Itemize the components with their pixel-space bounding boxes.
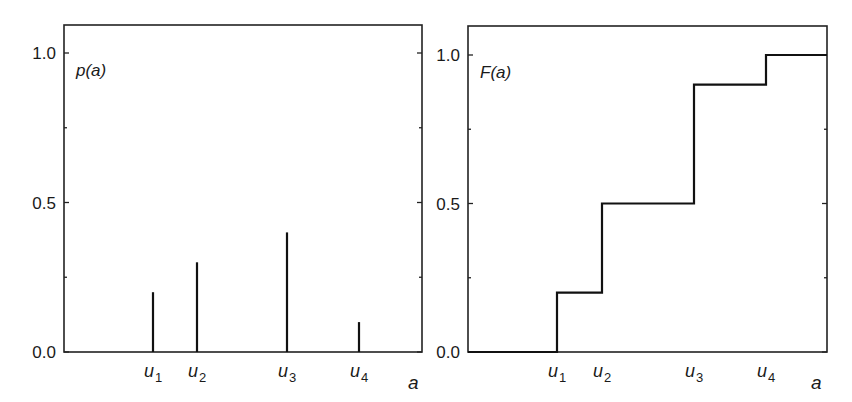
y-tick-label: 1.0 <box>32 44 56 63</box>
y-tick-label: 0.5 <box>436 195 460 214</box>
category-subscript: 2 <box>199 370 206 385</box>
category-subscript: 1 <box>155 370 162 385</box>
x-category-label: u3 <box>685 361 703 385</box>
category-base: u <box>593 361 603 381</box>
chart-canvas: 0.00.51.0p(a)u1u2u3u4a 0.00.51.0F(a)u1u2… <box>0 0 852 402</box>
x-category-label: u3 <box>278 361 296 385</box>
category-base: u <box>757 361 767 381</box>
category-base: u <box>685 361 695 381</box>
x-axis-label: a <box>408 372 419 393</box>
category-subscript: 4 <box>361 370 368 385</box>
y-tick-label: 0.0 <box>436 343 460 362</box>
category-base: u <box>188 361 198 381</box>
x-category-label: u4 <box>350 361 368 385</box>
category-subscript: 1 <box>559 370 566 385</box>
x-axis-label: a <box>811 372 822 393</box>
y-tick-label: 0.5 <box>32 194 56 213</box>
x-category-label: u2 <box>593 361 611 385</box>
x-category-label: u2 <box>188 361 206 385</box>
y-tick-label: 0.0 <box>32 343 56 362</box>
category-base: u <box>278 361 288 381</box>
category-base: u <box>548 361 558 381</box>
x-category-label: u4 <box>757 361 775 385</box>
pmf-panel: 0.00.51.0p(a)u1u2u3u4a <box>32 25 422 393</box>
x-category-label: u1 <box>144 361 162 385</box>
plot-frame <box>468 26 827 352</box>
category-subscript: 3 <box>289 370 296 385</box>
cdf-panel: 0.00.51.0F(a)u1u2u3u4a <box>436 26 827 393</box>
figure: 0.00.51.0p(a)u1u2u3u4a 0.00.51.0F(a)u1u2… <box>0 0 852 402</box>
plot-frame <box>64 25 422 352</box>
category-subscript: 4 <box>768 370 775 385</box>
category-subscript: 3 <box>696 370 703 385</box>
y-tick-label: 1.0 <box>436 46 460 65</box>
cdf-step-line <box>468 55 827 352</box>
x-category-label: u1 <box>548 361 566 385</box>
category-subscript: 2 <box>604 370 611 385</box>
function-label: F(a) <box>480 63 511 82</box>
function-label: p(a) <box>75 61 106 80</box>
category-base: u <box>350 361 360 381</box>
category-base: u <box>144 361 154 381</box>
